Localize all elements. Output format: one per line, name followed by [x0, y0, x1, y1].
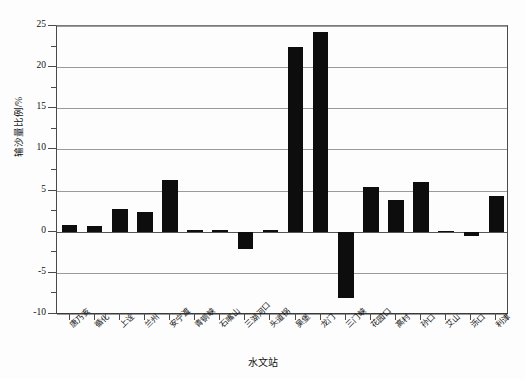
chart-figure: 2520151050-5-10 输沙量比例/% 唐乃亥循化上诠兰州安宁渡青铜峡石… [0, 0, 525, 379]
bar [137, 212, 153, 232]
bar [288, 47, 304, 232]
y-axis-tick [48, 107, 56, 108]
y-axis-tick-label: 25 [0, 20, 46, 30]
bar [489, 196, 505, 232]
y-axis-tick-label: 0 [0, 226, 46, 236]
y-axis-tick [48, 148, 56, 149]
bar [238, 232, 254, 249]
y-axis-title: 输沙量比例/% [11, 67, 25, 187]
bar [464, 232, 480, 236]
bar [212, 230, 228, 232]
y-axis-minor-tick [51, 251, 56, 252]
y-axis-tick-labels: 2520151050-5-10 [0, 0, 46, 379]
bar [62, 225, 78, 232]
y-axis-tick [48, 190, 56, 191]
y-axis-minor-tick [51, 128, 56, 129]
y-axis-tick-label: -10 [0, 308, 46, 318]
bar [263, 230, 279, 232]
bar [187, 230, 203, 232]
bar [87, 226, 103, 232]
y-axis-minor-tick [51, 87, 56, 88]
bar-series [57, 26, 507, 313]
y-axis-tick [48, 25, 56, 26]
y-axis-minor-tick [51, 46, 56, 47]
y-axis-tick [48, 66, 56, 67]
y-axis-minor-tick [51, 210, 56, 211]
y-axis-tick [48, 272, 56, 273]
bar [162, 180, 178, 232]
bar [313, 32, 329, 232]
y-axis-tick [48, 231, 56, 232]
bar [363, 187, 379, 231]
bar [388, 200, 404, 232]
plot-area [56, 25, 508, 313]
y-axis-tick-label: -5 [0, 267, 46, 277]
bar [413, 182, 429, 232]
y-axis-minor-tick [51, 169, 56, 170]
x-axis-title: 水文站 [0, 354, 525, 369]
y-axis-tick [48, 313, 56, 314]
bar [438, 231, 454, 232]
y-axis-minor-tick [51, 292, 56, 293]
bar [338, 232, 354, 299]
bar [112, 209, 128, 231]
